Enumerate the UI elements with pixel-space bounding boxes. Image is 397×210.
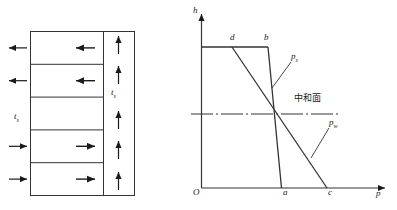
origin-label-O: O xyxy=(193,188,200,197)
pile-cell-dividers xyxy=(31,64,104,162)
label-ts-strip: ts xyxy=(111,88,116,99)
axis-label-h: h xyxy=(193,6,198,15)
leader-line-ps xyxy=(272,62,291,88)
figure-canvas: ts ts h p O d b a c ps pw 中和面 xyxy=(0,0,397,210)
curve-label-ps: ps xyxy=(291,52,298,63)
label-ts-outer: ts xyxy=(14,112,19,123)
figure-vector-layer xyxy=(0,0,397,210)
axis-label-p: p xyxy=(376,189,381,198)
point-label-c: c xyxy=(328,188,332,197)
curve-label-pw: pw xyxy=(329,118,338,129)
point-label-b: b xyxy=(264,33,269,42)
neutral-plane-label: 中和面 xyxy=(294,94,321,103)
stress-polygon xyxy=(202,47,328,188)
point-label-d: d xyxy=(230,33,235,42)
point-label-a: a xyxy=(283,188,288,197)
leader-line-pw xyxy=(311,128,329,158)
pile-inner-arrows xyxy=(76,48,95,179)
